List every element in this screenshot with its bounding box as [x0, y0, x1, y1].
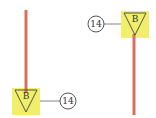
symbol-left: B 14 — [12, 10, 76, 115]
symbol-right: B 14 — [88, 11, 149, 115]
diagram-canvas: B 14 B 14 — [0, 0, 156, 118]
triangle-label: B — [132, 14, 139, 24]
circle-label: 14 — [62, 96, 74, 106]
triangle-label: B — [23, 91, 30, 101]
circle-label: 14 — [90, 19, 102, 29]
